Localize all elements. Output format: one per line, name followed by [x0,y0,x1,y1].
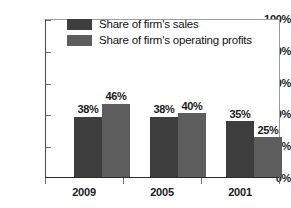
y-tick-mark [46,52,51,53]
x-tick-mark [123,178,124,184]
x-tick-mark [279,178,280,184]
y-tick-mark [46,84,51,85]
y-tick-mark [46,115,51,116]
bar-2009-profits [102,104,130,177]
legend-swatch-icon [67,35,92,46]
x-category-label-2001: 2001 [228,187,252,198]
bar-value-label: 40% [176,101,208,112]
bar-value-label: 25% [252,125,284,136]
legend: Share of firm's sales Share of firm's op… [67,18,252,47]
legend-label: Share of firm's sales [99,19,199,31]
legend-swatch-icon [67,19,92,30]
plot-area: 38% 46% 38% 40% 35% 25% Share of firm's … [45,19,280,178]
bar-2009-sales [74,117,102,177]
bar-2001-profits [254,137,282,177]
bar-chart: 100% 80% 60% 40% 20% 0% 38% 46% [0,0,291,208]
bar-2005-sales [150,117,178,177]
x-category-label-2005: 2005 [150,187,174,198]
x-category-label-2009: 2009 [72,187,96,198]
legend-item-profits: Share of firm's operating profits [67,34,252,47]
bar-value-label: 46% [100,91,132,102]
bar-2001-sales [226,121,254,177]
bar-value-label: 35% [224,109,256,120]
x-tick-mark [201,178,202,184]
y-tick-mark [46,20,51,21]
bar-2005-profits [178,113,206,177]
y-tick-mark [46,147,51,148]
x-tick-mark [45,178,46,184]
legend-label: Share of firm's operating profits [99,35,252,47]
legend-item-sales: Share of firm's sales [67,18,252,31]
bar-value-label: 38% [72,104,104,115]
